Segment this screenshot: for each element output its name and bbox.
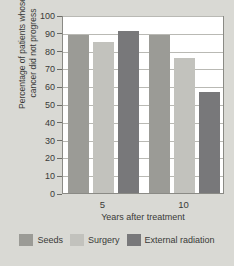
bar-external-radiation-5y	[118, 31, 139, 193]
y-axis-tick-mark	[57, 16, 62, 17]
y-axis-tick-label: 60	[45, 82, 55, 92]
y-axis-title-line2: cancer did not progress	[28, 0, 39, 143]
y-axis-title-line1: Percentage of patients whose	[17, 0, 28, 143]
bar-external-radiation-10y	[199, 92, 220, 193]
legend-item[interactable]: Seeds	[19, 234, 63, 246]
y-axis-tick: 40	[45, 118, 62, 128]
chart-legend: SeedsSurgeryExternal radiation	[0, 234, 234, 246]
y-axis-tick-label: 30	[45, 136, 55, 146]
plot-area	[62, 16, 224, 194]
y-axis-tick-label: 70	[45, 64, 55, 74]
bar-surgery-10y	[174, 58, 195, 193]
y-axis-tick-mark	[57, 105, 62, 106]
legend-label: Surgery	[88, 235, 120, 245]
gridline	[63, 16, 223, 17]
x-axis-title: Years after treatment	[62, 212, 224, 222]
y-axis-tick-label: 50	[45, 100, 55, 110]
y-axis-tick-label: 20	[45, 153, 55, 163]
y-axis-tick-label: 40	[45, 118, 55, 128]
legend-swatch	[70, 234, 84, 246]
y-axis-tick: 20	[45, 153, 62, 163]
y-axis-tick-label: 10	[45, 171, 55, 181]
x-axis-tick-label: 5	[83, 199, 123, 210]
legend-label: Seeds	[37, 235, 63, 245]
y-axis-tick-label: 90	[45, 29, 55, 39]
y-axis-tick-label: 80	[45, 47, 55, 57]
x-axis-tick-label: 10	[164, 199, 204, 210]
legend-item[interactable]: Surgery	[70, 234, 120, 246]
legend-label: External radiation	[145, 235, 215, 245]
y-axis-tick-mark	[57, 176, 62, 177]
bar-seeds-10y	[149, 35, 170, 193]
y-axis-tick-mark	[57, 33, 62, 34]
y-axis-tick-mark	[57, 158, 62, 159]
y-axis-tick: 80	[45, 47, 62, 57]
y-axis-tick: 90	[45, 29, 62, 39]
y-axis-tick: 70	[45, 64, 62, 74]
y-axis-tick: 50	[45, 100, 62, 110]
legend-swatch	[19, 234, 33, 246]
y-axis-tick-mark	[57, 69, 62, 70]
legend-swatch	[127, 234, 141, 246]
y-axis-tick-mark	[57, 140, 62, 141]
bar-surgery-5y	[93, 42, 114, 193]
y-axis-tick-label: 100	[40, 11, 55, 21]
y-axis-tick: 10	[45, 171, 62, 181]
y-axis-tick-mark	[57, 87, 62, 88]
y-axis-tick: 60	[45, 82, 62, 92]
y-axis-tick-mark	[57, 51, 62, 52]
y-axis-tick: 100	[40, 11, 62, 21]
y-axis-tick: 0	[50, 189, 62, 199]
y-axis-tick-label: 0	[50, 189, 55, 199]
y-axis-title: Percentage of patients whose cancer did …	[17, 0, 39, 143]
y-axis-tick-mark	[57, 194, 62, 195]
legend-item[interactable]: External radiation	[127, 234, 215, 246]
y-axis-tick-mark	[57, 122, 62, 123]
y-axis-tick: 30	[45, 136, 62, 146]
chart-figure: 0102030405060708090100 Percentage of pat…	[0, 0, 234, 266]
bar-seeds-5y	[68, 35, 89, 193]
